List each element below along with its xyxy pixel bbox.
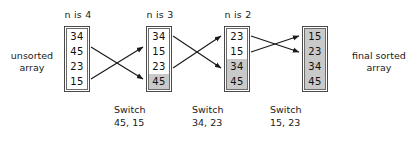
array-cell: 15 [149,44,169,59]
switch-caption-2-pair: 34, 23 [192,116,223,129]
array-box-stage-1-inner: 34 45 23 15 [66,28,88,90]
swap-arrows-stage-1 [91,47,143,79]
array-cell: 23 [67,59,87,74]
switch-caption-1-title: Switch [114,103,145,116]
array-box-stage-3: 23 15 34 45 [224,26,250,92]
array-cell: 34 [67,29,87,44]
array-box-stage-2-inner: 34 15 23 45 [148,28,170,90]
swap-arrows-stage-2 [173,36,221,68]
unsorted-array-label: unsorted array [4,50,60,74]
array-cell: 15 [67,74,87,89]
switch-caption-3-pair: 15, 23 [270,116,301,129]
switch-caption-3: Switch 15, 23 [270,103,301,129]
array-cell: 23 [149,59,169,74]
array-cell-sorted: 45 [149,74,169,89]
array-cell: 45 [67,44,87,59]
array-box-final: 15 23 34 45 [302,26,328,92]
final-sorted-array-label: final sorted array [344,50,414,74]
array-cell-sorted: 15 [305,29,325,44]
array-cell-sorted: 45 [227,74,247,89]
switch-caption-3-title: Switch [270,103,301,116]
array-cell-sorted: 34 [305,59,325,74]
array-box-stage-3-inner: 23 15 34 45 [226,28,248,90]
array-box-stage-1: 34 45 23 15 [64,26,90,92]
unsorted-array-label-line2: array [4,62,60,74]
array-cell-sorted: 23 [305,44,325,59]
final-sorted-array-label-line2: array [344,62,414,74]
step-header-1: n is 4 [52,9,104,20]
switch-caption-2: Switch 34, 23 [192,103,223,129]
array-cell-sorted: 34 [227,59,247,74]
array-cell: 23 [227,29,247,44]
array-cell: 34 [149,29,169,44]
step-header-3: n is 2 [212,9,264,20]
array-box-final-inner: 15 23 34 45 [304,28,326,90]
switch-caption-1-pair: 45, 15 [114,116,145,129]
bubble-sort-diagram: n is 4 n is 3 n is 2 unsorted array 34 4… [0,0,418,141]
array-cell: 15 [227,44,247,59]
array-box-stage-2: 34 15 23 45 [146,26,172,92]
step-header-2: n is 3 [134,9,186,20]
switch-caption-2-title: Switch [192,103,223,116]
switch-caption-1: Switch 45, 15 [114,103,145,129]
final-sorted-array-label-line1: final sorted [344,50,414,62]
array-cell-sorted: 45 [305,74,325,89]
unsorted-array-label-line1: unsorted [4,50,60,62]
swap-arrows-stage-3 [251,36,299,52]
